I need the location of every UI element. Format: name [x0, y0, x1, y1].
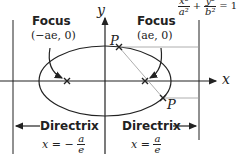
eq-den-2: b²	[205, 7, 215, 17]
eq-equals: = 1	[219, 0, 237, 11]
left-directrix-title: Directrix	[40, 119, 99, 133]
eq-plus: +	[193, 0, 201, 11]
point-p-top: P	[110, 33, 119, 48]
x-axis-label: x	[222, 71, 230, 87]
left-focus-title: Focus	[32, 14, 71, 28]
left-directrix-prefix: x = −	[42, 138, 74, 151]
right-focus-coord: (ae, 0)	[137, 29, 173, 42]
point-p-bottom: P	[167, 97, 176, 112]
right-focus-title: Focus	[137, 14, 176, 28]
left-directrix-eq: x = − ae	[42, 134, 85, 154]
ellipse-equation: x²a² + y²b² = 1	[178, 0, 237, 17]
eq-den-1: a²	[179, 7, 189, 17]
right-directrix-den: e	[154, 145, 160, 154]
y-axis-label: y	[97, 2, 105, 18]
right-directrix-eq: x = ae	[131, 134, 161, 154]
right-directrix-title: Directrix	[122, 119, 181, 133]
left-focus-coord: (−ae, 0)	[31, 29, 76, 42]
right-directrix-prefix: x =	[131, 138, 150, 151]
left-directrix-den: e	[78, 145, 84, 154]
